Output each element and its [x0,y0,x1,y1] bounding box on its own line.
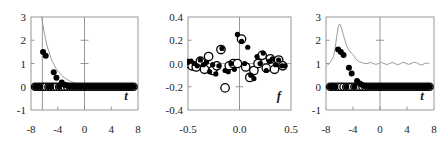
filled-circle-marker [427,84,433,90]
x-tick-label: 0 [377,123,383,135]
y-tick-label: -1 [312,104,321,116]
x-tick-label: -0.5 [179,123,197,135]
x-tick-label: -8 [321,123,331,135]
y-tick-labels: -0.4-0.20.00.20.4 [166,11,184,116]
filled-circle-marker [43,53,49,59]
filled-circle-marker [235,32,240,37]
y-tick-label: 0.0 [169,58,183,70]
y-tick-label: 0 [21,81,27,93]
filled-circle-marker [216,63,221,68]
y-tick-label: -1 [17,104,26,116]
panel-2-frequency-domain: -0.50.00.5-0.4-0.20.00.20.4f [148,0,298,149]
filled-circle-marker [229,61,234,66]
x-tick-label: 4 [109,123,115,135]
panel-2-plot: -0.50.00.5-0.4-0.20.00.20.4f [148,0,298,149]
x-tick-label: -8 [26,123,36,135]
y-tick-label: 1 [316,58,322,70]
filled-circle-marker [210,62,215,67]
filled-circle-marker [239,39,244,44]
filled-circle-marker [341,52,347,58]
y-tick-labels: -10123 [17,11,27,116]
filled-circle-marker [332,84,338,90]
filled-circle-marker [270,56,275,61]
filled-circle-marker [131,84,137,90]
y-tick-label: 0 [316,81,322,93]
filled-circle-marker [245,45,250,50]
y-tick-label: 0.4 [169,11,183,23]
filled-circle-marker [204,60,209,65]
x-tick-label: 4 [404,123,410,135]
panel-1-plot: -8-4048-10123t [0,0,148,149]
filled-circle-marker [254,54,259,59]
filled-circle-marker [207,69,212,74]
three-panel-figure: -8-4048-10123t -0.50.00.5-0.4-0.20.00.20… [0,0,445,149]
y-tick-label: 0.2 [169,34,183,46]
filled-circle-marker [276,57,281,62]
y-tick-label: 1 [21,58,27,70]
panel-3-time-domain: -8-4048-10123t [298,0,445,149]
filled-circle-marker [232,67,237,72]
filled-circle-marker [198,57,203,62]
filled-circle-marker [351,84,357,90]
filled-circle-marker [251,76,256,81]
filled-circle-marker [258,61,263,66]
filled-circle-marker [226,69,231,74]
x-tick-label: -4 [53,123,63,135]
x-tick-labels: -0.50.00.5 [179,123,298,135]
filled-circle-marker [282,63,287,68]
filled-circle-marker [213,71,218,76]
open-circle-marker [204,52,212,60]
y-tick-label: -0.4 [166,104,184,116]
y-tick-labels: -10123 [312,11,322,116]
panel-3-plot: -8-4048-10123t [298,0,445,149]
filled-circle-marker [51,69,57,75]
x-tick-label: 0 [82,123,88,135]
x-tick-label: -4 [348,123,358,135]
x-tick-label: 8 [135,123,141,135]
x-tick-label: 0.5 [284,123,298,135]
y-tick-label: -0.2 [166,81,183,93]
open-circle-marker [233,59,241,67]
filled-circle-marker [219,46,224,51]
filled-circle-marker [261,50,266,55]
filled-circle-marker [242,61,247,66]
y-tick-label: 3 [21,11,27,23]
x-tick-label: 8 [431,123,437,135]
x-tick-labels: -8-4048 [321,123,437,135]
filled-circle-marker [346,65,352,71]
filled-circle-marker [195,63,200,68]
filled-circle-marker [273,62,278,67]
filled-circle-marker [37,84,43,90]
panel-1-time-domain: -8-4048-10123t [0,0,148,149]
open-circle-marker [221,84,229,92]
filled-circle-marker [48,84,54,90]
axis-variable-label: f [277,88,283,103]
filled-circle-marker [349,70,355,76]
x-tick-labels: -8-4048 [26,123,141,135]
x-tick-label: 0.0 [233,123,247,135]
y-tick-label: 2 [21,34,27,46]
filled-circle-marker [343,84,349,90]
filled-circle-marker [53,75,59,81]
y-tick-label: 3 [316,11,322,23]
y-tick-label: 2 [316,34,322,46]
data-layer [184,32,288,92]
series-curve [327,24,429,65]
filled-circle-marker [264,68,269,73]
